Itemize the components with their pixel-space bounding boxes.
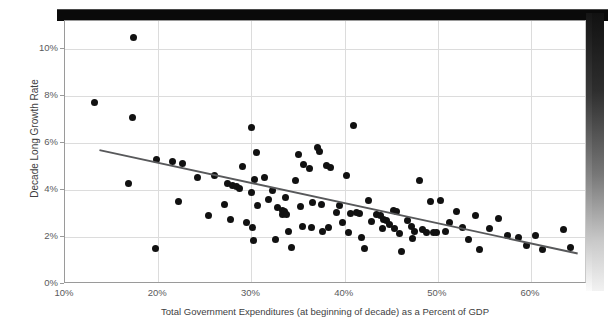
x-axis-title: Total Government Expenditures (at beginn…: [64, 306, 586, 317]
y-tick-label: 8%: [0, 90, 58, 100]
x-tick-label: 20%: [137, 288, 177, 298]
x-tick-label: 60%: [510, 288, 550, 298]
y-tick-label: 6%: [0, 137, 58, 147]
chart-page: Decade Long Growth Rate 0%2%4%6%8%10% 10…: [0, 0, 610, 331]
y-tick-label: 10%: [0, 43, 58, 53]
y-tick-label: 4%: [0, 184, 58, 194]
trendline: [65, 21, 587, 284]
x-tick-label: 40%: [324, 288, 364, 298]
y-tick-label: 2%: [0, 231, 58, 241]
y-tick-mark: [60, 283, 64, 284]
x-tick-label: 10%: [44, 288, 84, 298]
x-tick-label: 30%: [230, 288, 270, 298]
plot-area: [64, 20, 586, 283]
x-tick-label: 50%: [417, 288, 457, 298]
scan-artifact-right-strip: [592, 13, 604, 291]
y-tick-label: 0%: [0, 278, 58, 288]
